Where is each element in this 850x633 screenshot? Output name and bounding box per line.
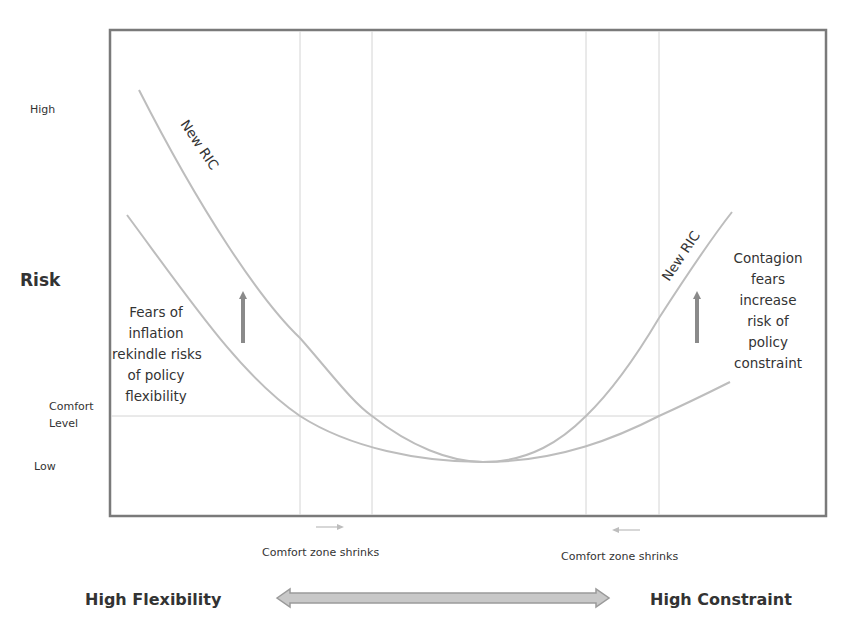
svg-text:of policy: of policy [127, 367, 184, 383]
svg-text:inflation: inflation [129, 325, 184, 341]
risk-comfort-diagram: New RIC New RIC High Risk Comfort Level … [0, 0, 850, 633]
comfort-zone-label-right: Comfort zone shrinks [561, 550, 678, 563]
svg-text:risk of: risk of [747, 313, 790, 329]
svg-text:Contagion: Contagion [734, 250, 803, 266]
svg-text:Fears of: Fears of [129, 304, 184, 320]
svg-text:constraint: constraint [734, 355, 802, 371]
flexibility-constraint-double-arrow [277, 589, 609, 607]
y-label-comfort-1: Comfort [49, 400, 94, 413]
y-label-high: High [30, 103, 55, 116]
y-label-comfort-2: Level [49, 417, 78, 430]
svg-text:rekindle risks: rekindle risks [112, 346, 202, 362]
comfort-shrink-arrow-right [316, 524, 344, 530]
x-label-high-constraint: High Constraint [650, 590, 792, 609]
y-axis-title: Risk [20, 270, 61, 290]
comfort-shrink-arrow-left [612, 527, 640, 533]
y-label-low: Low [34, 460, 56, 473]
svg-text:policy: policy [748, 334, 788, 350]
svg-text:flexibility: flexibility [125, 388, 186, 404]
svg-text:fears: fears [751, 271, 785, 287]
x-label-high-flexibility: High Flexibility [85, 590, 222, 609]
comfort-zone-label-left: Comfort zone shrinks [262, 546, 379, 559]
plot-frame [110, 30, 826, 516]
svg-text:increase: increase [740, 292, 797, 308]
